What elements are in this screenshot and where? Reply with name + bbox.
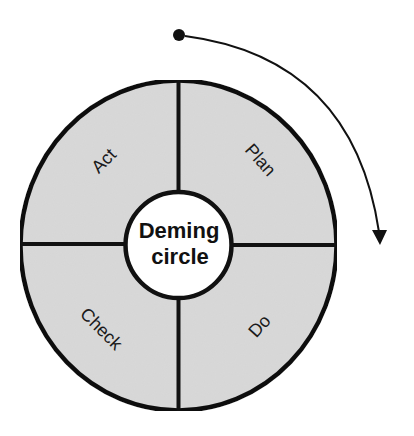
arrow-start-dot [173,29,185,41]
arrow-head [372,230,387,245]
center-label-line2: circle [151,244,209,269]
deming-circle-diagram: Deming circle Plan Do Check Act [0,0,414,436]
center-label-line1: Deming [139,218,220,243]
